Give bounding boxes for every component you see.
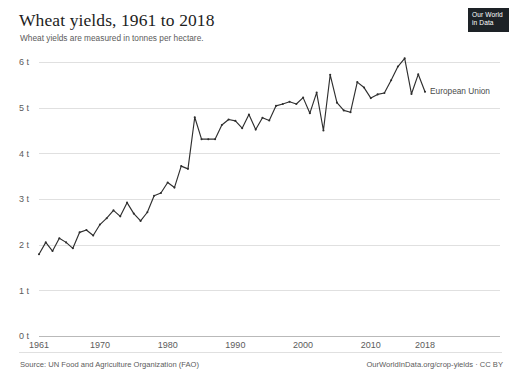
y-axis-tick-label: 4 t bbox=[19, 149, 30, 159]
series-point bbox=[99, 224, 101, 226]
series-point bbox=[187, 168, 189, 170]
series-point bbox=[397, 66, 399, 68]
y-axis-tick-label: 0 t bbox=[19, 331, 30, 341]
series-point bbox=[268, 119, 270, 121]
series-point bbox=[167, 182, 169, 184]
series-point bbox=[417, 73, 419, 75]
footer-divider bbox=[19, 352, 502, 353]
series-point bbox=[336, 102, 338, 104]
y-axis-tick-label: 1 t bbox=[19, 286, 30, 296]
line-chart-svg: 0 t1 t2 t3 t4 t5 t6 t 196119701980199020… bbox=[0, 0, 521, 384]
series-point bbox=[221, 124, 223, 126]
chart-page: Wheat yields, 1961 to 2018 Wheat yields … bbox=[0, 0, 521, 384]
series-point bbox=[51, 250, 53, 252]
series-point bbox=[173, 187, 175, 189]
source-note: Source: UN Food and Agriculture Organiza… bbox=[20, 360, 199, 369]
series-point bbox=[92, 234, 94, 236]
x-axis-tick-label: 2000 bbox=[293, 340, 313, 350]
series-point bbox=[370, 97, 372, 99]
series-point bbox=[133, 213, 135, 215]
y-axis-tick-label: 5 t bbox=[19, 103, 30, 113]
chart-plot-area: 0 t1 t2 t3 t4 t5 t6 t 196119701980199020… bbox=[0, 0, 521, 384]
series-point bbox=[295, 103, 297, 105]
license-note[interactable]: OurWorldInData.org/crop-yields · CC BY bbox=[366, 360, 503, 369]
series-point bbox=[255, 129, 257, 131]
data-series-group bbox=[38, 57, 426, 255]
series-point bbox=[194, 116, 196, 118]
series-point bbox=[424, 91, 426, 93]
series-point bbox=[282, 103, 284, 105]
series-point bbox=[343, 109, 345, 111]
series-point bbox=[383, 92, 385, 94]
series-point bbox=[38, 253, 40, 255]
series-point bbox=[302, 97, 304, 99]
x-axis-tick-label: 2018 bbox=[415, 340, 435, 350]
series-point bbox=[153, 195, 155, 197]
x-axis-tick-label: 1990 bbox=[225, 340, 245, 350]
series-point bbox=[363, 87, 365, 89]
series-point bbox=[65, 241, 67, 243]
series-point bbox=[356, 81, 358, 83]
x-axis-tick-label: 1980 bbox=[158, 340, 178, 350]
series-point bbox=[390, 79, 392, 81]
x-axis-tick-labels: 1961197019801990200020102018 bbox=[29, 340, 435, 350]
series-point bbox=[146, 211, 148, 213]
series-point bbox=[309, 112, 311, 114]
y-axis-tick-label: 6 t bbox=[19, 57, 30, 67]
series-point bbox=[329, 74, 331, 76]
series-point bbox=[180, 165, 182, 167]
series-line bbox=[39, 58, 425, 254]
series-label[interactable]: European Union bbox=[430, 86, 490, 96]
series-point bbox=[112, 209, 114, 211]
series-point bbox=[349, 111, 351, 113]
series-point bbox=[72, 247, 74, 249]
series-point bbox=[316, 92, 318, 94]
series-point bbox=[45, 241, 47, 243]
x-axis-tick-label: 1961 bbox=[29, 340, 49, 350]
series-point bbox=[214, 138, 216, 140]
series-point bbox=[410, 93, 412, 95]
series-point bbox=[85, 229, 87, 231]
series-point bbox=[207, 138, 209, 140]
series-point bbox=[160, 192, 162, 194]
series-point bbox=[404, 57, 406, 59]
series-point bbox=[200, 138, 202, 140]
series-point bbox=[106, 217, 108, 219]
x-axis-tick-label: 1970 bbox=[90, 340, 110, 350]
series-point bbox=[126, 202, 128, 204]
series-point bbox=[377, 93, 379, 95]
y-axis-tick-label: 2 t bbox=[19, 240, 30, 250]
series-point bbox=[58, 237, 60, 239]
series-point bbox=[248, 113, 250, 115]
y-axis-tick-labels: 0 t1 t2 t3 t4 t5 t6 t bbox=[19, 57, 30, 341]
gridlines bbox=[39, 63, 500, 337]
series-point bbox=[79, 231, 81, 233]
series-point bbox=[228, 118, 230, 120]
series-point bbox=[289, 101, 291, 103]
x-axis-tick-label: 2010 bbox=[361, 340, 381, 350]
series-point bbox=[234, 120, 236, 122]
series-point bbox=[119, 215, 121, 217]
y-axis-tick-label: 3 t bbox=[19, 194, 30, 204]
series-point bbox=[322, 129, 324, 131]
series-annotations: European Union bbox=[430, 86, 490, 96]
series-point bbox=[140, 220, 142, 222]
series-point bbox=[275, 105, 277, 107]
series-point bbox=[241, 127, 243, 129]
series-point bbox=[261, 117, 263, 119]
